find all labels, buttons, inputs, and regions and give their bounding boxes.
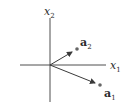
vector-a2-point xyxy=(75,47,79,51)
vector-a2-label: a2 xyxy=(80,36,92,51)
x1-axis-label: x1 xyxy=(110,59,121,74)
vector-a1-arrow xyxy=(50,65,95,83)
vector-diagram: x2 x1 a2 a1 xyxy=(0,0,123,108)
vector-a1-point xyxy=(98,83,102,87)
vector-a1-label: a1 xyxy=(104,87,116,102)
vector-a2-arrow xyxy=(50,52,72,65)
x2-axis-label: x2 xyxy=(44,5,55,20)
